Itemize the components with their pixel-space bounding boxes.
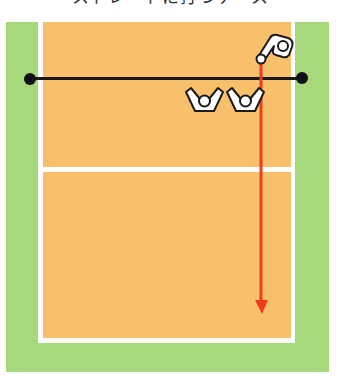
court-back-zone xyxy=(43,172,291,338)
volleyball-court-diagram xyxy=(0,0,340,376)
net-post-right xyxy=(296,72,308,84)
net-post-left xyxy=(24,73,36,85)
ball xyxy=(257,55,266,64)
